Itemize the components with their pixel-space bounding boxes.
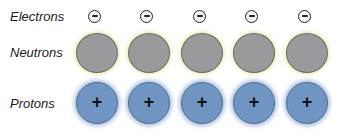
proton-circle: + [128, 82, 170, 124]
plus-icon: + [144, 93, 155, 111]
plus-icon: + [197, 93, 208, 111]
neutron-circle [76, 33, 118, 73]
plus-icon: + [92, 93, 103, 111]
proton-circle: + [76, 82, 118, 124]
protons-label: Protons [10, 96, 55, 111]
electron-icon [140, 10, 153, 23]
neutron-circle [181, 33, 223, 73]
proton-circle: + [181, 82, 223, 124]
plus-icon: + [302, 93, 313, 111]
electron-icon [193, 10, 206, 23]
proton-circle: + [286, 82, 328, 124]
neutrons-label: Neutrons [10, 45, 63, 60]
plus-icon: + [249, 93, 260, 111]
neutron-circle [233, 33, 275, 73]
electron-icon [298, 10, 311, 23]
neutron-circle [128, 33, 170, 73]
neutron-circle [286, 33, 328, 73]
electron-icon [88, 10, 101, 23]
electrons-label: Electrons [10, 9, 64, 24]
proton-circle: + [233, 82, 275, 124]
electron-icon [245, 10, 258, 23]
